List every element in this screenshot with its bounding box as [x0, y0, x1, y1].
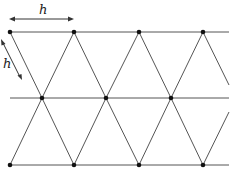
side-length-label: h	[3, 56, 11, 71]
lower-diagonals	[10, 98, 229, 165]
upper-diagonals	[10, 32, 229, 98]
horizontal-dimension-arrow	[9, 17, 74, 22]
triangular-lattice-diagram: h h	[0, 0, 230, 171]
horizontal-spacing-label: h	[39, 2, 47, 17]
